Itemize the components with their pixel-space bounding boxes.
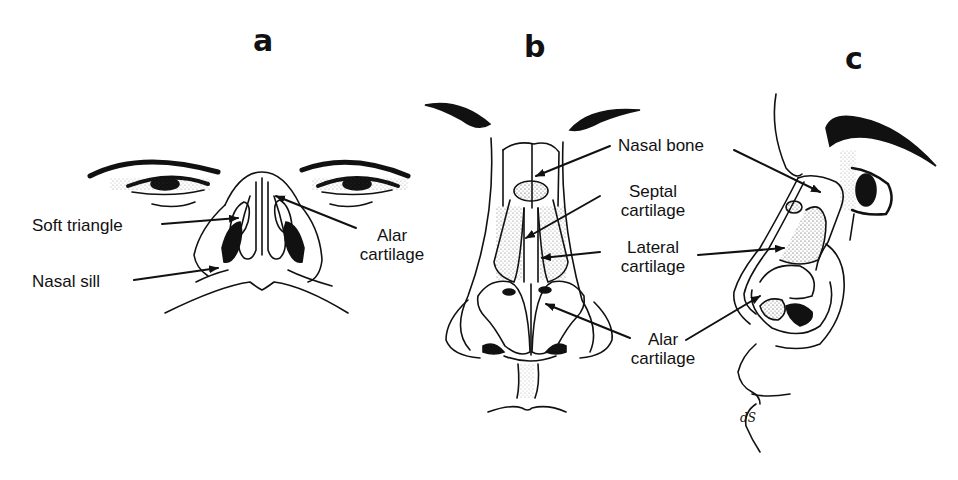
label-nasal-bone: Nasal bone [618, 136, 704, 155]
label-lateral-cartilage: Lateral cartilage [608, 238, 698, 276]
label-septal-cartilage-line1: Septal [608, 182, 698, 201]
panel-c-drawing: dS [686, 94, 936, 452]
label-lateral-cartilage-line1: Lateral [608, 238, 698, 257]
nose-anatomy-illustration: dS [0, 0, 958, 480]
label-alar-cartilage-b-line1: Alar [618, 330, 708, 349]
label-alar-cartilage-b: Alar cartilage [618, 330, 708, 368]
label-alar-cartilage-a-line2: cartilage [346, 245, 438, 264]
label-soft-triangle: Soft triangle [32, 216, 123, 235]
svg-text:dS: dS [740, 411, 756, 425]
label-alar-cartilage-a: Alar cartilage [346, 226, 438, 264]
label-septal-cartilage-line2: cartilage [608, 201, 698, 220]
label-septal-cartilage: Septal cartilage [608, 182, 698, 220]
label-lateral-cartilage-line2: cartilage [608, 257, 698, 276]
label-alar-cartilage-a-line1: Alar [346, 226, 438, 245]
label-nasal-sill: Nasal sill [32, 272, 100, 291]
label-alar-cartilage-b-line2: cartilage [618, 349, 708, 368]
